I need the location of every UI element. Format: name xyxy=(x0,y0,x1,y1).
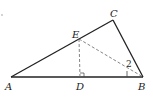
label-e: E xyxy=(71,29,80,40)
label-d: D xyxy=(75,81,84,92)
label-a: A xyxy=(4,81,12,92)
label-b: B xyxy=(137,81,145,92)
stray-dot xyxy=(1,14,2,15)
segment-ed xyxy=(79,39,80,77)
label-c: C xyxy=(110,8,118,19)
segment-ca xyxy=(11,20,113,77)
triangle-diagram: A D B C E 2 xyxy=(0,0,153,101)
angle-label-2: 2 xyxy=(126,59,132,69)
